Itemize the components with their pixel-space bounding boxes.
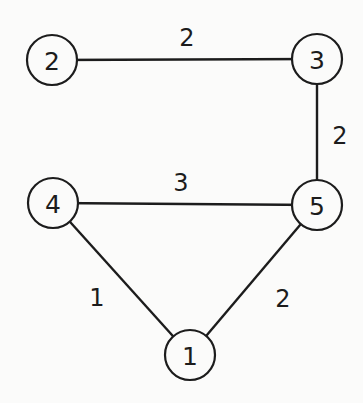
edge-weight-4-1: 1 [89,284,104,312]
node-1-label: 1 [182,342,198,371]
edge-weight-4-5: 3 [173,169,188,197]
node-5: 5 [292,180,342,230]
node-4: 4 [28,178,78,228]
node-5-label: 5 [309,192,325,221]
edge-weight-2-3: 2 [179,24,194,52]
node-2: 2 [27,35,77,85]
node-3-label: 3 [309,46,325,75]
node-2-label: 2 [44,47,60,76]
nodes: 1 2 3 4 5 [27,34,342,380]
edge-weight-3-5: 2 [332,122,347,150]
node-1: 1 [165,330,215,380]
edge-4-5 [53,203,317,205]
graph-diagram: 2 2 3 1 2 1 2 3 4 5 [0,0,363,403]
edge-weight-5-1: 2 [275,285,290,313]
edge-4-1 [53,203,190,355]
edge-5-1 [190,205,317,355]
node-4-label: 4 [45,190,61,219]
node-3: 3 [292,34,342,84]
edge-2-3 [52,59,317,60]
